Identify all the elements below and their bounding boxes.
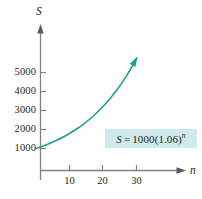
equation-callout: S=1000(1.06)n — [105, 129, 197, 148]
y-tick-label-4000: 4000 — [0, 85, 36, 96]
y-tick-label-1000: 1000 — [0, 142, 36, 153]
equation-text: S=1000(1.06)n — [116, 133, 185, 145]
exponential-growth-chart: 5000 4000 3000 2000 1000 10 20 30 S n S=… — [0, 0, 202, 199]
y-axis-arrowhead — [37, 24, 43, 34]
y-axis-label: S — [36, 5, 42, 17]
y-tick-label-2000: 2000 — [0, 123, 36, 134]
x-tick-label-30: 30 — [122, 175, 151, 186]
x-tick-label-20: 20 — [88, 175, 117, 186]
curve-arrowhead — [130, 56, 138, 67]
x-tick-label-10: 10 — [55, 175, 84, 186]
x-axis-label: n — [190, 164, 196, 176]
chart-plot-area — [0, 0, 202, 199]
y-tick-label-5000: 5000 — [0, 66, 36, 77]
y-tick-label-3000: 3000 — [0, 104, 36, 115]
x-axis-arrowhead — [177, 167, 187, 173]
